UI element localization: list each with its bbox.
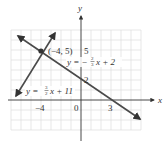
eq2-prefix: y =	[25, 86, 38, 96]
eq1-suffix: x + 2	[95, 57, 116, 67]
eq1-prefix: y = −	[66, 57, 88, 67]
intersection-point	[38, 48, 43, 53]
tick-y-2: 2	[84, 75, 89, 85]
equation-line-2: y = 3 2 x + 11	[25, 85, 75, 96]
tick-x-3: 3	[108, 103, 113, 113]
tick-y-5: 5	[84, 46, 89, 56]
tick-x-neg4: −4	[35, 103, 45, 113]
y-axis-label: y	[77, 3, 82, 13]
x-axis-label: x	[157, 95, 162, 105]
point-label: (−4, 5)	[48, 46, 73, 56]
tick-origin: 0	[74, 103, 79, 113]
equation-line-1: y = − 2 3 x + 2	[66, 56, 122, 67]
coordinate-graph: x y (−4, 5) 5 2 −4 0 3 y = − 2 3 x + 2 y…	[0, 0, 168, 148]
eq2-suffix: x + 11	[49, 86, 73, 96]
